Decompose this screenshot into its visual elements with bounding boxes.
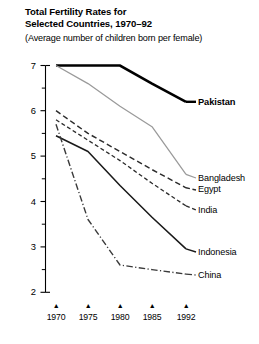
series-label-egypt: Egypt	[198, 184, 221, 195]
x-tick-label-1985: 1985	[135, 312, 169, 322]
chart-plot-area: 7 6 5 4 3 2 ▲ ▲ ▲ ▲ ▲ 1970 1975 1980 198…	[0, 0, 259, 344]
leader-egypt	[186, 188, 196, 190]
series-label-bangladesh: Bangladesh	[198, 173, 245, 184]
series-line-egypt	[56, 111, 186, 188]
x-tick-marker-1985: ▲	[135, 301, 169, 311]
series-label-india: India	[198, 205, 217, 216]
x-tick-marker-1992: ▲	[169, 301, 203, 311]
x-tick-label-1992: 1992	[169, 312, 203, 322]
x-tick-label-1975: 1975	[71, 312, 105, 322]
y-tick-label-4: 4	[22, 197, 36, 207]
series-label-pakistan: Pakistan	[198, 97, 235, 108]
leader-china	[186, 274, 196, 275]
series-label-indonesia: Indonesia	[198, 247, 237, 258]
series-label-china: China	[198, 270, 221, 281]
series-line-india	[56, 120, 186, 206]
x-tick-label-1980: 1980	[103, 312, 137, 322]
leader-indonesia	[186, 249, 196, 252]
series-line-bangladesh	[56, 66, 186, 175]
x-tick-marker-1970: ▲	[39, 301, 73, 311]
y-tick-label-2: 2	[22, 287, 36, 297]
y-tick-label-3: 3	[22, 242, 36, 252]
y-tick-label-7: 7	[22, 61, 36, 71]
y-axis	[41, 66, 51, 293]
leader-india	[186, 206, 196, 210]
chart-page: Total Fertility Rates for Selected Count…	[0, 0, 259, 344]
leader-bangladesh	[186, 174, 196, 178]
x-tick-marker-1975: ▲	[71, 301, 105, 311]
y-tick-label-5: 5	[22, 151, 36, 161]
x-tick-marker-1980: ▲	[103, 301, 137, 311]
series-line-pakistan	[56, 66, 186, 102]
x-tick-label-1970: 1970	[39, 312, 73, 322]
y-tick-label-6: 6	[22, 106, 36, 116]
